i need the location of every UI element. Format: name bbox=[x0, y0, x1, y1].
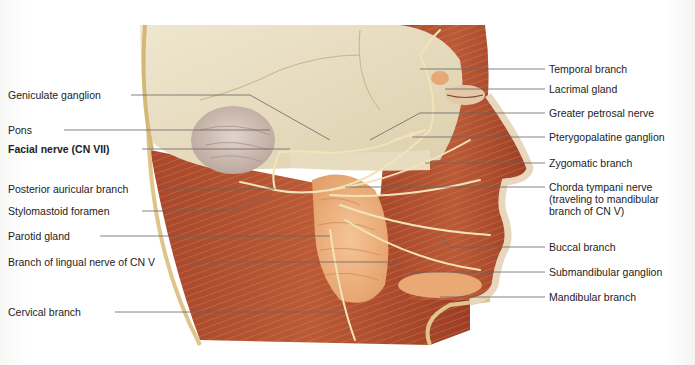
label-lacrimal-gland: Lacrimal gland bbox=[549, 83, 617, 95]
label-parotid-gland: Parotid gland bbox=[8, 230, 70, 242]
label-facial-nerve: Facial nerve (CN VII) bbox=[8, 143, 110, 155]
label-zygomatic-branch: Zygomatic branch bbox=[549, 157, 632, 169]
label-buccal-branch: Buccal branch bbox=[549, 241, 616, 253]
label-stylomastoid-foramen: Stylomastoid foramen bbox=[8, 205, 110, 217]
label-pterygopalatine-ganglion: Pterygopalatine ganglion bbox=[549, 131, 665, 143]
label-chorda-tympani-nerve: Chorda tympani nerve (traveling to mandi… bbox=[549, 181, 664, 217]
label-cervical-branch: Cervical branch bbox=[8, 306, 81, 318]
label-lingual-nerve-branch: Branch of lingual nerve of CN V bbox=[8, 256, 155, 268]
label-pons: Pons bbox=[8, 124, 32, 136]
label-posterior-auricular-branch: Posterior auricular branch bbox=[8, 183, 128, 195]
label-greater-petrosal-nerve: Greater petrosal nerve bbox=[549, 107, 654, 119]
label-mandibular-branch: Mandibular branch bbox=[549, 291, 636, 303]
label-temporal-branch: Temporal branch bbox=[549, 63, 627, 75]
label-submandibular-ganglion: Submandibular ganglion bbox=[549, 266, 662, 278]
label-geniculate-ganglion: Geniculate ganglion bbox=[8, 89, 101, 101]
figure-canvas: Geniculate ganglion Pons Facial nerve (C… bbox=[0, 0, 695, 365]
